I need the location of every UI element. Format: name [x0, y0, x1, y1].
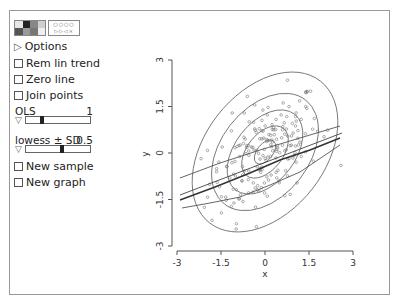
scatter-plot: -3-1.501.53-3-1.501.53 x y: [0, 0, 401, 307]
svg-text:-3: -3: [155, 242, 165, 251]
x-axis-label: x: [262, 269, 268, 279]
density-contours: [162, 44, 367, 260]
svg-text:-1.5: -1.5: [212, 258, 230, 268]
svg-text:-1.5: -1.5: [155, 191, 165, 209]
svg-text:3: 3: [155, 57, 165, 63]
data-points: [200, 79, 342, 230]
svg-text:1.5: 1.5: [155, 99, 165, 113]
axes: [172, 60, 353, 251]
svg-text:0: 0: [262, 258, 268, 268]
ols-line: [180, 133, 342, 195]
svg-text:1.5: 1.5: [302, 258, 316, 268]
y-axis-label: y: [140, 151, 150, 157]
svg-text:0: 0: [155, 150, 165, 156]
svg-text:-3: -3: [173, 258, 182, 268]
svg-text:3: 3: [350, 258, 356, 268]
